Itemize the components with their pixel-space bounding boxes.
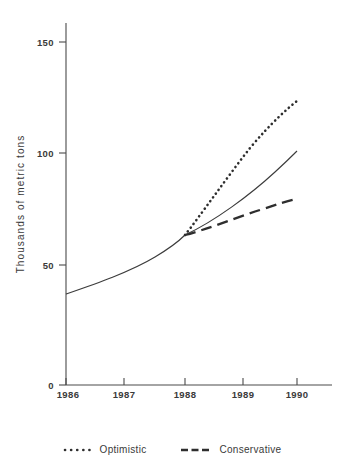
y-tick-label-100: 100 (37, 148, 54, 159)
series-baseline-line (185, 151, 297, 235)
y-axis-ticks: 150 100 50 0 (37, 37, 66, 391)
y-tick-label-0: 0 (48, 380, 54, 391)
legend-label-conservative: Conservative (219, 444, 281, 455)
x-tick-label-1986: 1986 (57, 389, 80, 400)
x-axis-ticks: 1986 1987 1988 1989 1990 (57, 378, 309, 400)
y-tick-label-150: 150 (37, 37, 54, 48)
dotted-line-swatch-icon (63, 446, 93, 454)
series-conservative-line (185, 199, 297, 235)
legend-label-optimistic: Optimistic (100, 444, 147, 455)
line-chart-plot: 150 100 50 0 1986 1987 1988 1989 1990 Th… (0, 0, 344, 462)
legend-entry-conservative: Conservative (180, 444, 281, 455)
x-tick-label-1988: 1988 (174, 389, 197, 400)
x-tick-label-1987: 1987 (113, 389, 136, 400)
legend-entry-optimistic: Optimistic (63, 444, 147, 455)
series-historical-line (66, 235, 185, 294)
x-tick-label-1990: 1990 (286, 389, 309, 400)
y-axis-title: Thousands of metric tons (15, 135, 26, 274)
y-tick-label-50: 50 (43, 260, 54, 271)
chart-legend: Optimistic Conservative (0, 437, 344, 462)
dashed-line-swatch-icon (180, 446, 212, 454)
x-tick-label-1989: 1989 (232, 389, 255, 400)
chart-figure: 150 100 50 0 1986 1987 1988 1989 1990 Th… (0, 0, 344, 462)
